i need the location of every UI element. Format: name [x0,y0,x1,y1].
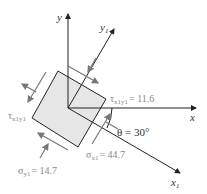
theta-label: θ = 30° [117,126,149,138]
y1-axis-label: y1 [99,21,108,35]
x-axis-label: x [189,111,195,123]
y-axis-label: y [56,11,62,23]
sigma-y1-arrow-bottom [40,144,48,158]
sigma-x1-arrow-left [22,84,36,92]
sigma-y1-label: σy1= 14.7 [18,165,57,178]
sigma-x1-label: σx1= 44.7 [86,149,125,162]
x1-axis-label: x1 [170,176,179,190]
x1-axis [68,108,180,173]
sigma-y1-arrow-top [88,58,96,72]
tau-label: τx1y1= 11.6 [110,93,154,106]
tau-left-label: τx1y1 [8,110,27,123]
stress-element-diagram: y y1 x x1 τx1y1= 11.6 τx1y1 σx1= 44.7 σy… [0,0,207,194]
